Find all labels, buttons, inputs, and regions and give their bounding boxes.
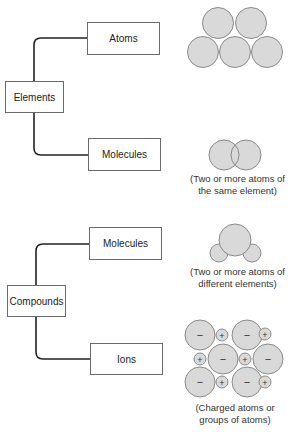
svg-text:+: + xyxy=(219,331,224,341)
caption-line: different elements) xyxy=(180,278,295,290)
particle-illustrations: − − − − − − + + + + + + xyxy=(0,0,295,432)
svg-text:+: + xyxy=(262,330,267,340)
atoms-cluster-icon xyxy=(188,8,283,68)
diatomic-molecule-icon xyxy=(209,140,261,170)
svg-text:−: − xyxy=(265,353,271,365)
element-molecules-caption: (Two or more atoms of the same element) xyxy=(180,173,295,197)
svg-text:−: − xyxy=(220,353,226,365)
caption-line: the same element) xyxy=(180,185,295,197)
caption-line: (Two or more atoms of xyxy=(180,266,295,278)
ions-caption: (Charged atoms or groups of atoms) xyxy=(180,402,290,426)
svg-text:−: − xyxy=(197,329,203,341)
compound-molecules-caption: (Two or more atoms of different elements… xyxy=(180,266,295,290)
caption-line: (Two or more atoms of xyxy=(180,173,295,185)
svg-text:+: + xyxy=(242,355,247,365)
svg-text:+: + xyxy=(219,378,224,388)
compound-molecule-icon xyxy=(210,224,261,262)
svg-text:−: − xyxy=(197,376,203,388)
svg-text:−: − xyxy=(244,376,250,388)
svg-text:+: + xyxy=(262,378,267,388)
svg-text:−: − xyxy=(244,329,250,341)
caption-line: groups of atoms) xyxy=(180,414,290,426)
caption-line: (Charged atoms or xyxy=(180,402,290,414)
svg-text:+: + xyxy=(197,355,202,365)
